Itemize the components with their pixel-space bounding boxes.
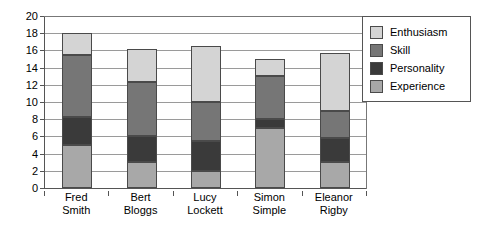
bar-segment[interactable]	[320, 53, 350, 111]
y-tick-label: 2	[14, 165, 38, 176]
x-category-label-line: Rigby	[302, 204, 366, 217]
x-category-label-line: Smith	[44, 204, 108, 217]
x-category-label: EleanorRigby	[302, 191, 366, 217]
x-category-label: LucyLockett	[173, 191, 237, 217]
bar-segment[interactable]	[320, 162, 350, 188]
y-tick-label: 10	[14, 97, 38, 108]
bar-segment[interactable]	[127, 162, 157, 188]
y-tick-label: 8	[14, 114, 38, 125]
bar-segment[interactable]	[191, 102, 221, 141]
legend-label: Experience	[390, 81, 445, 92]
y-tick-label: 0	[14, 183, 38, 194]
bar-segment[interactable]	[320, 138, 350, 162]
x-category-label: FredSmith	[44, 191, 108, 217]
legend-swatch-icon	[370, 26, 383, 39]
stacked-bar-chart: 02468101214161820 FredSmithBertBloggsLuc…	[0, 0, 479, 231]
x-category-label-line: Lucy	[173, 191, 237, 204]
plot-frame-top-border	[44, 16, 367, 17]
x-category-label-line: Fred	[44, 191, 108, 204]
x-axis: FredSmithBertBloggsLucyLockettSimonSimpl…	[44, 191, 366, 231]
x-category-label-line: Bloggs	[108, 204, 172, 217]
bar-segment[interactable]	[191, 171, 221, 188]
y-tick-label: 14	[14, 62, 38, 73]
bar-segment[interactable]	[320, 111, 350, 139]
y-tick-label: 18	[14, 28, 38, 39]
bar-group	[62, 16, 92, 188]
legend-label: Personality	[390, 63, 444, 74]
bar-segment[interactable]	[127, 82, 157, 136]
bar-segment[interactable]	[127, 49, 157, 83]
x-category-label-line: Lockett	[173, 204, 237, 217]
x-category-label-line: Bert	[108, 191, 172, 204]
bar-segment[interactable]	[62, 117, 92, 145]
bar-segment[interactable]	[255, 76, 285, 119]
legend-swatch-icon	[370, 44, 383, 57]
chart-legend: EnthusiasmSkillPersonalityExperience	[362, 16, 471, 102]
bar-segment[interactable]	[62, 33, 92, 55]
bar-segment[interactable]	[255, 128, 285, 188]
bar-segment[interactable]	[191, 46, 221, 102]
bar-group	[255, 16, 285, 188]
y-tick-mark	[40, 188, 45, 189]
legend-swatch-icon	[370, 62, 383, 75]
x-category-label-line: Simple	[237, 204, 301, 217]
x-tick-mark	[366, 191, 367, 196]
bar-segment[interactable]	[127, 136, 157, 162]
bar-segment[interactable]	[62, 145, 92, 188]
legend-item[interactable]: Personality	[370, 59, 464, 77]
bar-segment[interactable]	[62, 55, 92, 118]
bar-segment[interactable]	[255, 119, 285, 128]
y-tick-label: 4	[14, 148, 38, 159]
bar-group	[320, 16, 350, 188]
x-category-label: BertBloggs	[108, 191, 172, 217]
x-category-label: SimonSimple	[237, 191, 301, 217]
bar-segment[interactable]	[191, 141, 221, 171]
plot-area	[44, 16, 367, 189]
legend-label: Skill	[390, 45, 410, 56]
legend-swatch-icon	[370, 80, 383, 93]
legend-item[interactable]: Enthusiasm	[370, 23, 464, 41]
y-tick-label: 12	[14, 79, 38, 90]
y-tick-label: 20	[14, 11, 38, 22]
bars-layer	[45, 16, 367, 188]
legend-label: Enthusiasm	[390, 27, 447, 38]
x-category-label-line: Simon	[237, 191, 301, 204]
bar-group	[127, 16, 157, 188]
x-category-label-line: Eleanor	[302, 191, 366, 204]
bar-group	[191, 16, 221, 188]
legend-item[interactable]: Skill	[370, 41, 464, 59]
bar-segment[interactable]	[255, 59, 285, 76]
y-tick-label: 16	[14, 45, 38, 56]
y-axis: 02468101214161820	[14, 8, 38, 196]
y-tick-label: 6	[14, 131, 38, 142]
legend-item[interactable]: Experience	[370, 77, 464, 95]
